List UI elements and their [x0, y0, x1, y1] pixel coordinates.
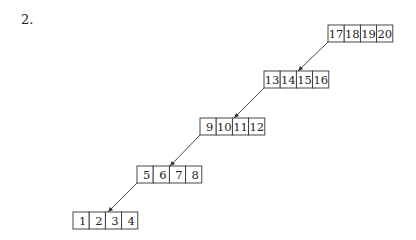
block-node: 5678: [137, 166, 202, 183]
block-key: 13: [265, 73, 280, 87]
pointer-arrow: [108, 183, 137, 212]
block-key: 4: [128, 214, 135, 228]
block-key: 15: [297, 73, 312, 87]
block-key: 14: [281, 73, 296, 87]
block-key: 3: [111, 214, 118, 228]
pointer-arrow: [234, 88, 264, 118]
block-key: 5: [143, 168, 150, 182]
block-key: 16: [313, 73, 328, 87]
block-node: 1234: [73, 212, 138, 229]
block-chain-diagram: 1718192013141516910111256781234: [0, 0, 416, 240]
block-node: 13141516: [264, 71, 329, 88]
block-key: 7: [175, 168, 182, 182]
block-key: 18: [345, 27, 360, 41]
block-node: 9101112: [200, 118, 265, 135]
block-key: 11: [233, 120, 248, 134]
block-key: 1: [79, 214, 86, 228]
block-key: 17: [329, 27, 344, 41]
pointer-arrow: [170, 135, 200, 166]
block-key: 2: [95, 214, 102, 228]
block-key: 10: [217, 120, 232, 134]
block-node: 17181920: [328, 25, 393, 42]
block-key: 6: [159, 168, 166, 182]
block-key: 9: [206, 120, 213, 134]
block-key: 8: [192, 168, 199, 182]
block-key: 19: [361, 27, 376, 41]
block-key: 12: [249, 120, 264, 134]
pointer-arrow: [298, 42, 328, 71]
block-key: 20: [377, 27, 392, 41]
